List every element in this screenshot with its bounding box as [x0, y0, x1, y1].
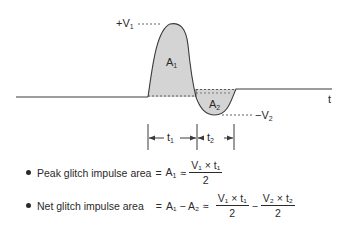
formula-net-label: Net glitch impulse area — [37, 200, 144, 212]
formula-peak-glitch: Peak glitch impulse area = A1 ≈ V₁ × t₁ … — [26, 159, 225, 186]
label-a2: A2 — [209, 99, 220, 111]
t2-arrowhead-right — [227, 136, 233, 141]
label-plus-v1: +V1 — [116, 18, 134, 30]
formula-net-fraction-2: V₂ × t₂ 2 — [261, 192, 295, 219]
formula-net-fraction-1: V₁ × t₁ 2 — [216, 192, 249, 219]
t2-arrowhead-left — [198, 136, 204, 141]
formula-net-lhs: A₁ − A₂ — [166, 200, 199, 212]
bullet-icon — [26, 203, 31, 208]
axis-label-t: t — [328, 94, 331, 105]
t1-arrowhead-left — [149, 136, 155, 141]
formula-net-eq2: ≈ — [203, 200, 209, 212]
formula-net-minus: − — [252, 200, 258, 212]
formula-peak-eq2: ≈ — [180, 167, 186, 179]
bullet-icon — [26, 170, 31, 175]
label-t2: t2 — [207, 132, 214, 144]
formula-peak-fraction: V₁ × t₁ 2 — [189, 159, 222, 186]
t1-arrowhead-right — [190, 136, 196, 141]
formula-peak-eq1: = — [155, 167, 161, 179]
formula-net-glitch: Net glitch impulse area = A₁ − A₂ ≈ V₁ ×… — [26, 192, 298, 219]
label-t1: t1 — [167, 132, 174, 144]
formula-peak-lhs: A1 — [166, 166, 177, 179]
label-minus-v2: −V2 — [255, 110, 273, 122]
formula-net-eq1: = — [156, 200, 162, 212]
label-a1: A1 — [166, 57, 177, 69]
formula-peak-label: Peak glitch impulse area — [37, 167, 151, 179]
